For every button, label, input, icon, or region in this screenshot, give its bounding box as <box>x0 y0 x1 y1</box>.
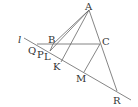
segment-CM <box>84 44 100 72</box>
label-K: K <box>53 61 61 72</box>
label-P: P <box>37 49 44 60</box>
label-M: M <box>76 73 86 84</box>
segment-AP <box>50 10 89 51</box>
segment-AR <box>89 10 117 91</box>
label-l: l <box>18 34 21 45</box>
segment-AK <box>61 10 89 62</box>
label-C: C <box>102 36 110 47</box>
label-Q: Q <box>28 45 36 56</box>
line-l <box>24 38 131 100</box>
label-B: B <box>48 34 55 45</box>
label-L: L <box>44 51 51 62</box>
label-R: R <box>113 95 121 106</box>
label-A: A <box>84 1 93 12</box>
geometry-diagram: A B C l Q P L K M R <box>0 0 138 107</box>
